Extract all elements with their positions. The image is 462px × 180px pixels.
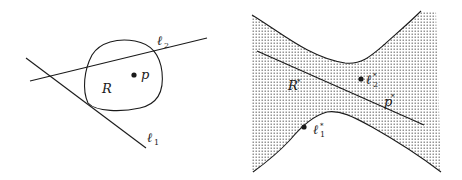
- svg-text:2: 2: [164, 41, 169, 50]
- svg-text:1: 1: [154, 138, 159, 147]
- line-l2-label: ℓ 2: [157, 33, 169, 50]
- point-p-label: p: [141, 67, 150, 82]
- svg-text:2: 2: [373, 80, 378, 89]
- svg-text:ℓ: ℓ: [147, 130, 153, 145]
- svg-text:1: 1: [320, 130, 325, 139]
- point-p: [131, 72, 136, 77]
- point-l2-star: [358, 76, 363, 81]
- svg-text:ℓ: ℓ: [313, 122, 319, 137]
- svg-text:ℓ: ℓ: [366, 72, 372, 87]
- line-l1-label: ℓ 1: [147, 130, 159, 147]
- svg-text:*: *: [297, 78, 301, 86]
- point-l1-star-label: ℓ * 1: [313, 122, 325, 139]
- svg-text:ℓ: ℓ: [157, 33, 163, 48]
- duality-figure: R p ℓ 2 ℓ 1 R * p *: [0, 0, 462, 180]
- point-l1-star: [301, 124, 306, 129]
- point-l2-star-label: ℓ * 2: [366, 72, 378, 89]
- dual-region-r-star: [252, 11, 441, 172]
- svg-text:*: *: [373, 72, 377, 80]
- svg-text:*: *: [391, 93, 395, 101]
- primal-diagram: R p ℓ 2 ℓ 1: [26, 33, 207, 148]
- svg-text:*: *: [320, 122, 324, 130]
- line-l2: [30, 38, 207, 81]
- region-r-boundary: [85, 40, 163, 111]
- dual-diagram: R * p * ℓ * 2 ℓ * 1: [252, 11, 441, 172]
- region-r-label: R: [101, 81, 112, 96]
